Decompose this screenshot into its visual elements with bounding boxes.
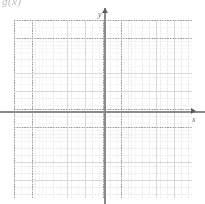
grid-dot-overlay [14, 20, 192, 198]
y-axis-arrow-icon [102, 8, 108, 13]
header-scrap-text: g(x) [2, 0, 21, 7]
x-axis-line [0, 111, 205, 113]
y-axis-label: y [98, 11, 102, 19]
x-axis-label: x [192, 116, 196, 124]
y-axis-line [104, 8, 106, 204]
plot-area: x y [14, 20, 192, 198]
graph-figure: g(x) x y [0, 0, 205, 204]
x-axis-arrow-icon [191, 108, 196, 114]
